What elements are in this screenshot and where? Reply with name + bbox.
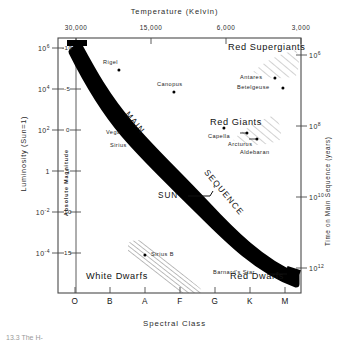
spectral-tick-a: A [142, 298, 148, 306]
region-label-red-giants: Red Giants [210, 118, 262, 127]
spectral-tick-k: K [247, 298, 253, 306]
temperature-tick-3000: 3,000 [292, 25, 311, 31]
luminosity-tick-1e6-exponent: 6 [47, 43, 50, 49]
region-label-red-supergiants: Red Supergiants [228, 43, 305, 52]
magnitude-tick-minus5: -5 [64, 86, 71, 92]
luminosity-tick-1e4: 104 [18, 85, 50, 93]
star-label-aldebaran: Aldebaran [240, 150, 270, 156]
spectral-tick-f: F [177, 298, 182, 306]
luminosity-tick-1-base: 1 [46, 168, 50, 175]
temperature-tick-6000: 6,000 [217, 25, 236, 31]
luminosity-tick-1e-2-exponent: -2 [45, 207, 50, 213]
luminosity-tick-1: 1 [18, 168, 50, 175]
absolute-magnitude-ticks [70, 48, 81, 253]
luminosity-tick-1e2-base: 10 [38, 127, 47, 134]
tms-tick-1e10-exponent: 10 [318, 192, 325, 198]
star-label-arcturus: Arcturus [228, 142, 252, 148]
luminosity-tick-1e-2: 10-2 [10, 208, 50, 216]
spectral-tick-g: G [212, 298, 219, 306]
spectral-tick-b: B [107, 298, 113, 306]
magnitude-tick-minus10: -10 [62, 45, 72, 51]
luminosity-tick-1e-2-base: 10 [36, 209, 45, 216]
spectral-tick-m: M [281, 298, 288, 306]
star-label-sirius: Sirius [110, 143, 127, 149]
star-label-vega: Vega [106, 130, 121, 136]
tms-tick-1e6: 106 [309, 51, 321, 59]
luminosity-tick-1e-4-exponent: -4 [45, 248, 50, 254]
region-label-white-dwarfs: White Dwarfs [86, 272, 148, 281]
magnitude-tick-0: 0 [66, 127, 70, 133]
magnitude-tick-5: 5 [66, 168, 70, 174]
figure-caption: 13.3 The H- [6, 334, 43, 342]
tms-tick-1e12-base: 10 [309, 265, 318, 272]
magnitude-tick-15: 15 [64, 250, 72, 256]
luminosity-tick-1e4-exponent: 4 [47, 84, 50, 90]
magnitude-tick-10: 10 [64, 209, 72, 215]
main-sequence-band [72, 46, 296, 284]
tms-tick-1e6-exponent: 6 [318, 50, 321, 56]
star-label-sirius-b: Sirius B [151, 252, 174, 258]
star-label-canopus: Canopus [157, 82, 183, 88]
star-label-capella: Capella [208, 134, 230, 140]
luminosity-axis-title: Luminosity (Sun=1) [20, 99, 27, 209]
tms-tick-1e6-base: 10 [309, 52, 318, 59]
luminosity-tick-1e2-exponent: 2 [47, 125, 50, 131]
luminosity-tick-1e2: 102 [18, 126, 50, 134]
star-label-rigel: Rigel [103, 60, 118, 66]
luminosity-tick-1e6: 106 [18, 44, 50, 52]
temperature-tick-30000: 30,000 [65, 25, 88, 31]
tms-tick-1e12: 1012 [309, 264, 324, 272]
tms-tick-1e10: 1010 [309, 193, 324, 201]
luminosity-tick-1e4-base: 10 [38, 86, 47, 93]
white-dwarfs-scatter-cloud [128, 240, 203, 300]
tms-tick-1e12-exponent: 12 [318, 263, 325, 269]
luminosity-tick-1e-4-base: 10 [36, 250, 45, 257]
hr-diagram-figure: Temperature (Kelvin) Spectral Class Lumi… [0, 0, 349, 342]
tms-tick-1e8-exponent: 8 [318, 121, 321, 127]
star-label-antares: Antares [240, 75, 262, 81]
star-label-barnards-star: Barnard's Star [213, 270, 255, 276]
tms-tick-1e8-base: 10 [309, 123, 318, 130]
time-on-main-sequence-axis-title: Time on Main Sequence (years) [325, 131, 331, 251]
luminosity-tick-1e-4: 10-4 [10, 249, 50, 257]
temperature-tick-15000: 15,000 [140, 25, 163, 31]
luminosity-tick-1e6-base: 10 [38, 45, 47, 52]
tms-tick-1e10-base: 10 [309, 194, 318, 201]
temperature-axis-title: Temperature (Kelvin) [0, 8, 349, 16]
spectral-class-axis-title: Spectral Class [0, 320, 349, 328]
spectral-tick-o: O [72, 298, 79, 306]
star-label-betelgeuse: Betelgeuse [237, 85, 270, 91]
tms-tick-1e8: 108 [309, 122, 321, 130]
sun-annotation-label: SUN [158, 192, 178, 200]
